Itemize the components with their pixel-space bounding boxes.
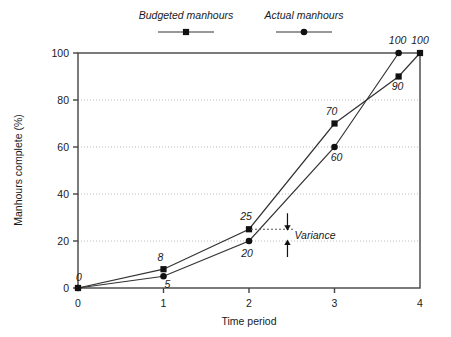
y-tick-label: 40 <box>57 188 69 200</box>
marker-square <box>331 120 337 126</box>
x-tick-label: 3 <box>332 297 338 309</box>
point-label: 8 <box>158 251 164 263</box>
y-tick-label: 0 <box>63 282 69 294</box>
point-label: 60 <box>331 151 343 163</box>
manhours-progress-chart: 01234 020406080100 Time period Manhours … <box>0 0 451 337</box>
x-tick-label: 4 <box>417 297 423 309</box>
y-tick-label: 60 <box>57 141 69 153</box>
legend-marker-square <box>183 29 189 35</box>
point-label: 0 <box>76 271 82 283</box>
legend-marker-circle <box>301 29 308 36</box>
x-tick-label: 2 <box>246 297 252 309</box>
x-axis-title: Time period <box>221 315 276 327</box>
variance-label: Variance <box>294 229 335 241</box>
point-label: 70 <box>326 105 338 117</box>
y-axis-title: Manhours complete (%) <box>12 114 24 225</box>
marker-circle <box>75 285 82 292</box>
point-label: 20 <box>240 247 253 259</box>
chart-container: 01234 020406080100 Time period Manhours … <box>0 0 451 337</box>
y-tick-label: 100 <box>51 47 69 59</box>
legend-label-budgeted: Budgeted manhours <box>139 9 234 21</box>
marker-circle <box>395 50 402 57</box>
marker-square <box>417 50 423 56</box>
marker-circle <box>331 144 338 151</box>
x-tick-label: 1 <box>161 297 167 309</box>
marker-square <box>160 266 166 272</box>
marker-circle <box>246 238 253 245</box>
y-tick-label: 20 <box>57 235 69 247</box>
x-tick-label: 0 <box>75 297 81 309</box>
y-tick-label: 80 <box>57 94 69 106</box>
point-label: 5 <box>165 278 171 290</box>
point-label: 100 <box>389 34 407 46</box>
point-label: 90 <box>392 80 404 92</box>
point-label: 100 <box>411 34 429 46</box>
point-label: 25 <box>239 210 252 222</box>
legend-label-actual: Actual manhours <box>264 9 345 21</box>
